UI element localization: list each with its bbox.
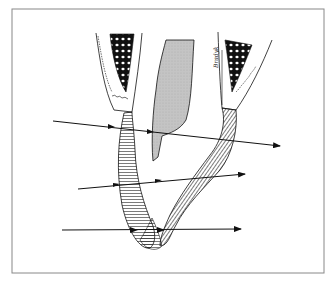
right-alveolar-bone	[218, 32, 272, 110]
left-alveolar-bone	[96, 33, 142, 112]
tooth-root	[152, 40, 194, 161]
artist-signature: Bradyk	[212, 46, 219, 68]
middle-arrow	[78, 174, 245, 189]
dental-diagram	[0, 0, 336, 282]
